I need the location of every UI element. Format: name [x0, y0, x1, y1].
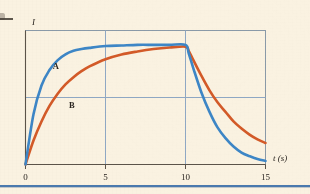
y-axis-label: I	[31, 17, 36, 27]
x-tick-label-10: 10	[181, 172, 191, 182]
x-tick-label-15: 15	[261, 172, 271, 182]
x-axis-label: t (s)	[273, 153, 287, 163]
curve-b	[26, 46, 266, 164]
curve-label-b: B	[69, 100, 75, 110]
graph-plot: I t (s) 0 5 10 15 A B	[0, 0, 310, 194]
curve-label-a: A	[53, 61, 60, 71]
x-tick-label-0: 0	[23, 172, 28, 182]
curve-a	[26, 44, 266, 164]
bottom-divider-shadow	[0, 187, 310, 188]
figure-panel: I t (s) 0 5 10 15 A B	[0, 0, 310, 194]
x-axis-ticks	[26, 165, 266, 170]
x-tick-label-5: 5	[103, 172, 108, 182]
